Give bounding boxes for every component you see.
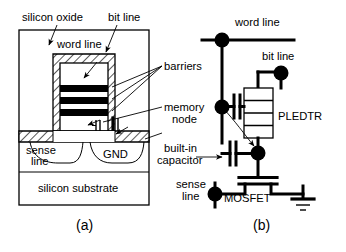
label-memory-node-2: node xyxy=(172,113,197,125)
label-sense-line-b-2: line xyxy=(182,190,199,202)
barrier-layer xyxy=(60,109,108,116)
label-barriers: barriers xyxy=(164,60,202,72)
node-memory xyxy=(251,146,266,161)
ground-symbol xyxy=(292,186,314,210)
caption-panel-b: (b) xyxy=(253,217,270,233)
figure-canvas: silicon oxide bit line word line sense l… xyxy=(0,0,346,252)
label-sense-line-a-2: line xyxy=(31,155,48,167)
label-silicon-substrate: silicon substrate xyxy=(38,182,118,194)
label-built-in-1: built-in xyxy=(164,142,197,154)
label-memory-node-1: memory xyxy=(164,101,205,113)
caption-panel-a: (a) xyxy=(76,217,93,233)
label-sense-line-b-1: sense xyxy=(176,178,206,190)
figure-root: silicon oxide bit line word line sense l… xyxy=(0,0,346,252)
node-word-line xyxy=(215,33,230,48)
label-built-in-2: capacitor xyxy=(157,154,203,166)
node-sense-line xyxy=(208,187,223,202)
label-pledtr: PLEDTR xyxy=(278,110,322,122)
barrier-layer xyxy=(60,97,108,104)
node-bit-line xyxy=(274,66,289,81)
label-bit-line-b: bit line xyxy=(262,50,294,62)
label-word-line-b: word line xyxy=(234,16,280,28)
label-word-line: word line xyxy=(56,38,102,50)
oxide-gap xyxy=(53,131,115,142)
label-silicon-oxide: silicon oxide xyxy=(22,11,83,23)
barrier-layer xyxy=(60,85,108,92)
label-gnd: GND xyxy=(103,148,128,160)
label-mosfet: MOSFET xyxy=(224,192,271,204)
label-bit-line: bit line xyxy=(108,11,140,23)
